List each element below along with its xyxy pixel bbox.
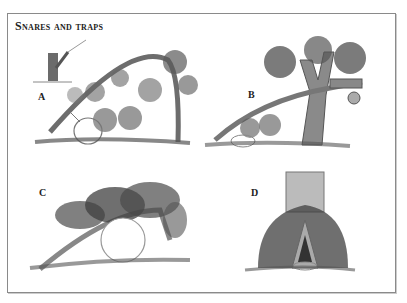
panel-label-d: D xyxy=(251,187,258,198)
panel-d-illustration xyxy=(245,172,355,270)
panel-label-a: A xyxy=(38,91,45,102)
panel-a-illustration xyxy=(33,40,198,144)
panel-label-c: C xyxy=(39,187,46,198)
panel-b-illustration xyxy=(205,36,366,147)
panel-label-b: B xyxy=(248,89,255,100)
snares-illustration xyxy=(0,0,407,303)
panel-c-illustration xyxy=(30,182,190,269)
